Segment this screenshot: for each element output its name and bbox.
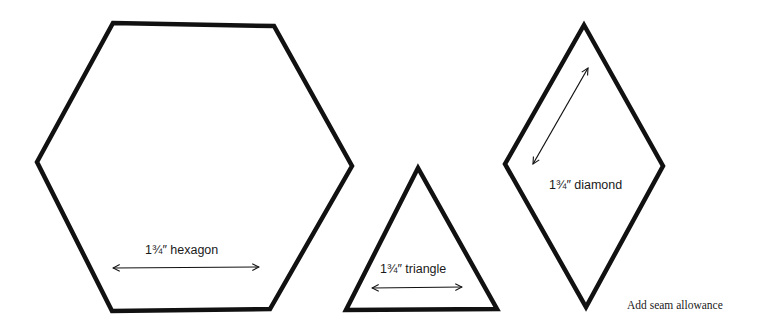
hexagon-label: 1¾″ hexagon xyxy=(145,243,218,257)
seam-allowance-note: Add seam allowance xyxy=(627,299,723,311)
diamond-dimension-arrow xyxy=(533,68,588,164)
triangle-shape xyxy=(346,168,497,310)
triangle-dimension-arrow xyxy=(372,287,462,288)
shapes-canvas xyxy=(0,0,764,334)
triangle-label: 1¾″ triangle xyxy=(380,262,446,276)
diamond-shape xyxy=(505,25,663,307)
hexagon-dimension-arrow xyxy=(113,267,259,268)
diamond-label: 1¾″ diamond xyxy=(549,178,622,192)
